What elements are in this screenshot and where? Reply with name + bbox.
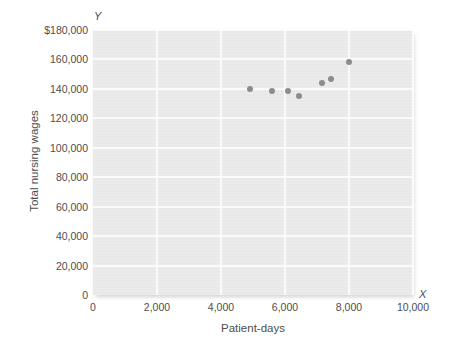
gridline-vertical <box>284 30 286 295</box>
data-point <box>269 88 275 94</box>
x-axis-tick-label: 4,000 <box>208 302 234 313</box>
data-point <box>296 93 302 99</box>
y-axis-tick-label: 40,000 <box>56 231 88 242</box>
y-axis-letter: Y <box>94 10 101 22</box>
plot-area <box>93 30 413 295</box>
x-axis-tick-label: 2,000 <box>144 302 170 313</box>
gridline-horizontal <box>93 176 413 178</box>
y-axis-title: Total nursing wages <box>28 76 40 246</box>
x-axis-tick-label: 0 <box>90 302 96 313</box>
y-axis-tick-labels: 020,00040,00060,00080,000100,000120,0001… <box>0 0 88 356</box>
x-axis-tick-label: 10,000 <box>397 302 429 313</box>
y-axis-tick-label: $180,000 <box>44 25 88 36</box>
y-axis-tick-label: 140,000 <box>50 84 88 95</box>
gridline-vertical <box>156 30 158 295</box>
gridline-horizontal <box>93 29 413 31</box>
y-axis-tick-label: 0 <box>82 290 88 301</box>
scatter-chart-figure: 020,00040,00060,00080,000100,000120,0001… <box>0 0 451 356</box>
data-point <box>285 88 291 94</box>
y-axis-tick-label: 120,000 <box>50 113 88 124</box>
y-axis-tick-label: 160,000 <box>50 54 88 65</box>
gridline-vertical <box>412 30 414 295</box>
gridline-horizontal <box>93 88 413 90</box>
gridline-horizontal <box>93 147 413 149</box>
gridline-horizontal <box>93 265 413 267</box>
data-point <box>247 86 253 92</box>
y-axis-tick-label: 20,000 <box>56 261 88 272</box>
y-axis-tick-label: 60,000 <box>56 202 88 213</box>
gridline-horizontal <box>93 117 413 119</box>
data-point <box>328 76 334 82</box>
y-axis-tick-label: 100,000 <box>50 143 88 154</box>
gridline-vertical <box>220 30 222 295</box>
data-point <box>319 80 325 86</box>
gridline-horizontal <box>93 58 413 60</box>
gridline-vertical <box>348 30 350 295</box>
x-axis-tick-label: 8,000 <box>336 302 362 313</box>
x-axis-tick-label: 6,000 <box>272 302 298 313</box>
gridline-horizontal <box>93 235 413 237</box>
gridline-horizontal <box>93 206 413 208</box>
y-axis-tick-label: 80,000 <box>56 172 88 183</box>
x-axis-letter: X <box>419 288 426 300</box>
data-point <box>346 59 352 65</box>
x-axis-title: Patient-days <box>93 322 413 334</box>
